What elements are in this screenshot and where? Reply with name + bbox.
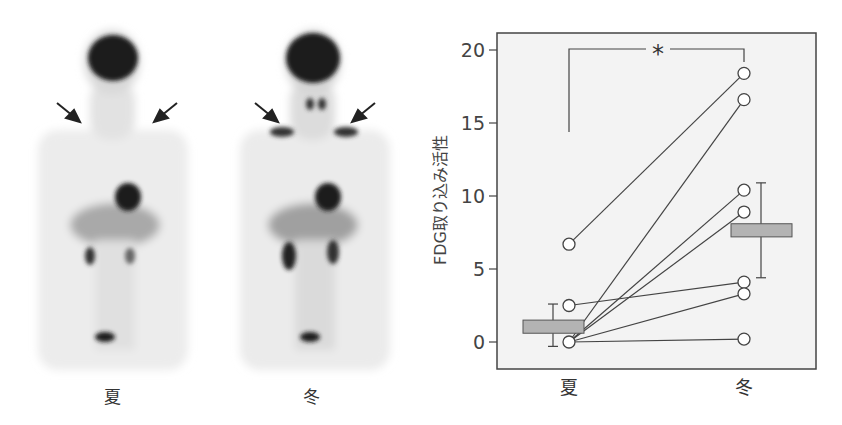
x-label-summer: 夏 [560,377,578,398]
data-point [738,67,750,79]
data-point [738,206,750,218]
y-tick-label: 10 [461,185,485,207]
y-tick-label: 15 [461,112,485,134]
x-label-winter: 冬 [735,377,753,398]
significance-star: * [652,40,664,68]
data-point [738,276,750,288]
data-point [563,300,575,312]
data-point [738,184,750,196]
data-point [563,238,575,250]
y-tick-label: 5 [473,258,485,280]
y-axis: 05101520 [461,39,497,353]
data-point [738,94,750,106]
fdg-uptake-chart: 05101520 FDG取り込み活性 * 夏 冬 [0,0,842,425]
data-point [738,333,750,345]
data-point [738,288,750,300]
y-tick-label: 0 [473,331,485,353]
summary-bar [523,320,584,333]
y-tick-label: 20 [461,39,485,61]
plot-area [497,33,816,369]
y-axis-label: FDG取り込み活性 [431,135,450,265]
data-point [563,336,575,348]
summary-bar [731,224,792,237]
